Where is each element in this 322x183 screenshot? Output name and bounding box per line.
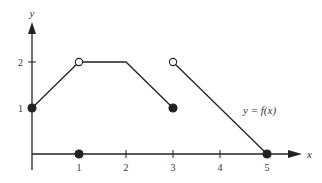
function-label: y = f(x) — [242, 104, 276, 117]
x-tick-label: 1 — [77, 162, 82, 173]
x-tick-label: 2 — [124, 162, 129, 173]
x-tick-label: 4 — [218, 162, 223, 173]
x-axis-arrow-icon — [288, 150, 302, 158]
closed-point — [169, 104, 177, 112]
closed-point — [28, 104, 36, 112]
graph-segment — [79, 62, 173, 108]
x-tick-label: 5 — [265, 162, 270, 173]
function-graph: 1234512 y x y = f(x) — [0, 0, 322, 183]
y-tick-label: 2 — [18, 57, 23, 68]
graph-points — [28, 58, 271, 158]
closed-point — [75, 150, 83, 158]
axes: 1234512 — [18, 22, 302, 173]
x-tick-label: 3 — [171, 162, 176, 173]
axis-labels: y x y = f(x) — [29, 7, 312, 160]
open-point — [75, 58, 82, 65]
y-tick-label: 1 — [18, 103, 23, 114]
x-axis-label: x — [306, 148, 312, 160]
y-axis-arrow-icon — [28, 22, 36, 34]
open-point — [169, 58, 176, 65]
closed-point — [263, 150, 271, 158]
graph-segment — [32, 62, 79, 108]
graph-segments — [32, 62, 267, 154]
y-axis-label: y — [29, 7, 35, 19]
